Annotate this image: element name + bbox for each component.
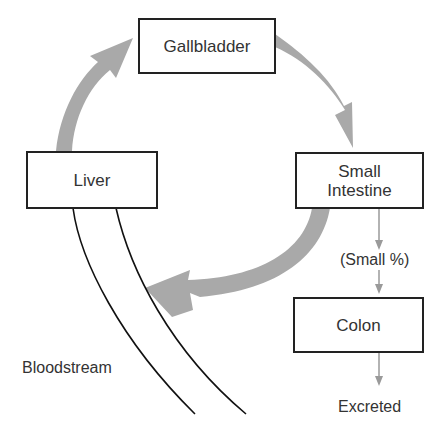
excreted-label: Excreted [338,398,401,416]
liver-node: Liver [26,151,158,209]
liver-label: Liver [74,171,111,190]
bloodstream-vessel [73,208,246,414]
gallbladder-node: Gallbladder [138,18,276,74]
gallbladder-label: Gallbladder [164,37,251,56]
colon-label: Colon [336,316,380,335]
bloodstream-label: Bloodstream [22,359,112,377]
small-intestine-label-line2: Intestine [327,181,391,200]
arrow-colon-to-excreted [375,352,383,386]
arrow-gallbladder-to-small-intestine [275,34,353,148]
small-intestine-node: Small Intestine [295,152,424,209]
colon-node: Colon [293,297,424,353]
arrow-liver-to-gallbladder [56,38,133,151]
small-percent-label: (Small %) [340,251,409,269]
small-intestine-label-line1: Small [338,162,381,181]
